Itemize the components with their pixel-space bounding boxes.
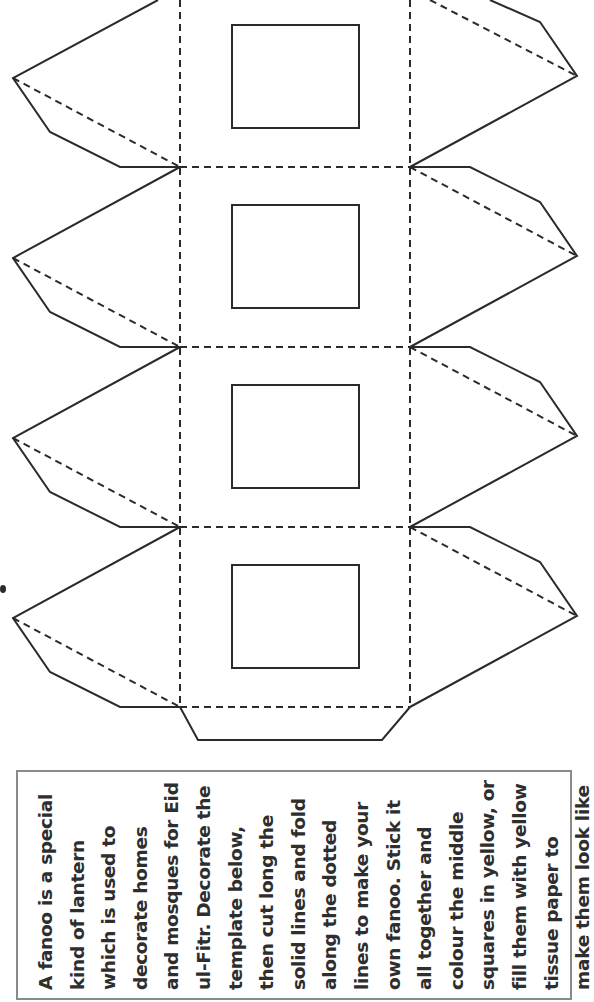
instruction-line: fill them with yellow	[504, 782, 536, 990]
instruction-line: solid lines and fold	[283, 782, 315, 990]
fanoo-template	[0, 0, 580, 760]
instructions-text: A fanoo is a special kind of lantern whi…	[18, 772, 574, 1002]
instruction-line: ul-Fitr. Decorate the	[188, 782, 220, 990]
window-square-3	[232, 385, 359, 488]
instruction-line: and mosques for Eid	[156, 782, 188, 990]
instruction-line: template below,	[220, 782, 252, 990]
instruction-line: own fanoo. Stick it	[378, 782, 410, 990]
instruction-line: along the dotted	[314, 782, 346, 990]
instruction-line: colour the middle	[441, 782, 473, 990]
instruction-line: then cut long the	[251, 782, 283, 990]
instruction-line: squares in yellow, or	[472, 782, 504, 990]
window-square-1	[232, 25, 359, 128]
instruction-line: tissue paper to	[536, 782, 568, 990]
instructions-box: A fanoo is a special kind of lantern whi…	[16, 770, 572, 1000]
instruction-line: make them look like	[567, 782, 594, 990]
window-square-4	[232, 565, 359, 668]
left-flaps	[13, 0, 180, 707]
bottom-tab	[180, 707, 410, 740]
instruction-line: decorate homes	[125, 782, 157, 990]
instruction-line: lines to make your	[346, 782, 378, 990]
window-square-2	[232, 205, 359, 308]
instruction-line: which is used to	[93, 782, 125, 990]
instruction-line: kind of lantern	[62, 782, 94, 990]
instruction-line: all together and	[409, 782, 441, 990]
stray-mark	[0, 585, 6, 593]
right-flaps	[410, 0, 577, 707]
instruction-line: A fanoo is a special	[30, 782, 62, 990]
